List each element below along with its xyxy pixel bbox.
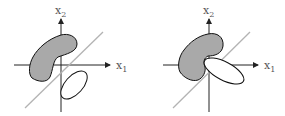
x2-axis-label: x2 <box>203 4 214 19</box>
gray-region <box>29 34 77 81</box>
right-panel: x2 x1 <box>163 4 275 112</box>
separating-hyperplane-figure: x2 x1 x2 x1 <box>0 0 285 116</box>
left-panel: x2 x1 <box>14 4 127 112</box>
x1-axis-label: x1 <box>264 59 275 74</box>
x2-axis-label: x2 <box>55 4 66 19</box>
x1-axis-label: x1 <box>116 59 127 74</box>
